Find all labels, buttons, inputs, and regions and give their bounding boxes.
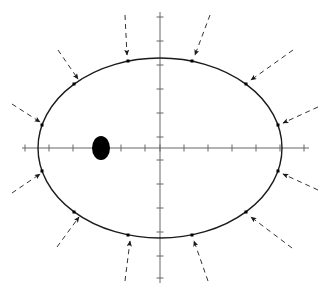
annotation-arrow xyxy=(251,217,292,248)
ellipse-point-marker xyxy=(277,170,280,173)
annotation-arrow xyxy=(283,107,318,123)
annotation-arrow xyxy=(12,174,40,193)
coordinate-axes xyxy=(22,12,309,283)
ellipse-point-marker xyxy=(127,234,130,237)
annotation-arrow xyxy=(57,217,79,247)
annotation-arrow xyxy=(125,15,127,55)
annotation-arrow xyxy=(251,50,293,80)
annotation-arrow xyxy=(195,15,210,55)
ellipse-point-marker xyxy=(191,234,194,237)
ellipse-point-marker xyxy=(41,124,44,127)
ellipse-diagram-canvas xyxy=(0,0,329,293)
ellipse-point-marker xyxy=(73,83,76,86)
annotation-arrow xyxy=(58,50,78,79)
ellipse-point-marker xyxy=(245,83,248,86)
ellipse-point-marker xyxy=(73,211,76,214)
focus-ellipse-marker xyxy=(92,136,110,160)
annotation-arrow xyxy=(125,241,130,281)
ellipse-point-marker xyxy=(245,211,248,214)
ellipse-point-marker xyxy=(191,60,194,63)
focus-marker xyxy=(92,136,110,160)
ellipse-point-marker xyxy=(41,170,44,173)
ellipse-figure xyxy=(0,0,329,293)
annotation-arrow xyxy=(12,104,40,122)
annotation-arrow xyxy=(194,241,208,281)
annotation-arrow xyxy=(283,174,318,190)
ellipse-point-marker xyxy=(277,124,280,127)
ellipse-point-marker xyxy=(127,60,130,63)
